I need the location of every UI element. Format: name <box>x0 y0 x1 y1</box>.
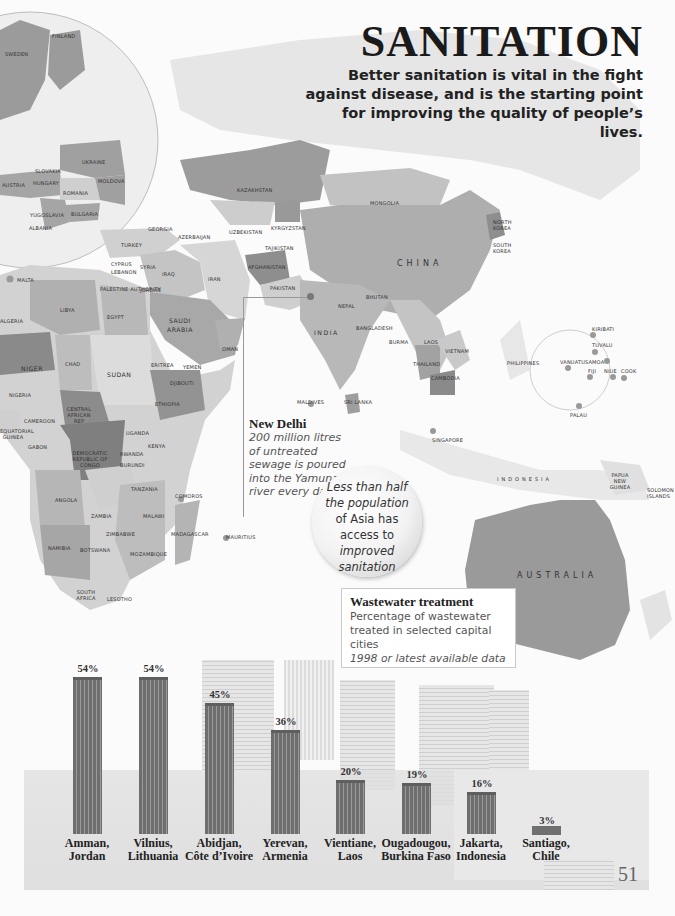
bar-jakarta <box>467 792 496 834</box>
bar-value: 20% <box>326 766 376 777</box>
bar-abidjan <box>205 703 234 834</box>
bar-vilnius <box>139 677 168 834</box>
bar-value: 36% <box>261 716 311 727</box>
bar-category-label: Santiago,Chile <box>504 837 588 863</box>
bar-value: 54% <box>129 663 179 674</box>
bar-santiago <box>532 826 561 835</box>
bar-value: 19% <box>392 769 442 780</box>
page-number: 51 <box>618 863 638 886</box>
bar-value: 16% <box>457 778 507 789</box>
bar-value: 54% <box>63 663 113 674</box>
bar-vientiane <box>336 780 365 834</box>
atlas-page: Finland Sweden Ukraine Slovakia Austria … <box>0 0 675 916</box>
bar-value: 45% <box>195 689 245 700</box>
bar-amman <box>73 677 102 834</box>
bar-ougadougou <box>402 783 431 834</box>
bar-yerevan <box>271 730 300 834</box>
bar-chart: 54% 54% 45% 36% 20% 19% 16% 3% Amman,Jor… <box>0 0 675 916</box>
bar-value: 3% <box>522 815 572 826</box>
